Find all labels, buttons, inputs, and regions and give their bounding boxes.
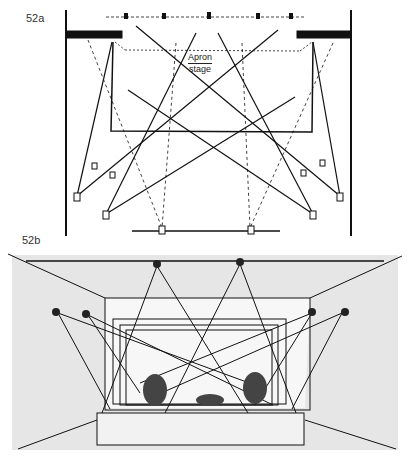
perspective-diagram <box>0 0 410 468</box>
